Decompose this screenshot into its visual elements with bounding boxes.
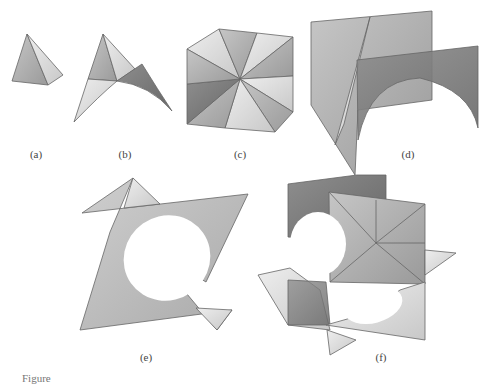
panel-label-f: (f) xyxy=(376,351,387,363)
panel-label-a: (a) xyxy=(30,148,42,160)
panel-a-pyramid xyxy=(12,34,63,85)
panel-f-intersecting xyxy=(258,175,456,355)
panel-e-star xyxy=(80,178,248,330)
panel-label-d: (d) xyxy=(402,148,415,160)
panel-label-c: (c) xyxy=(234,148,246,160)
figure-caption-partial: Figure xyxy=(22,372,51,384)
panel-label-b: (b) xyxy=(119,148,132,160)
panel-label-e: (e) xyxy=(140,351,152,363)
panel-c-radial-hexagon xyxy=(187,29,293,132)
panel-b-saddle xyxy=(74,34,172,122)
panel-d-arch xyxy=(311,11,478,175)
